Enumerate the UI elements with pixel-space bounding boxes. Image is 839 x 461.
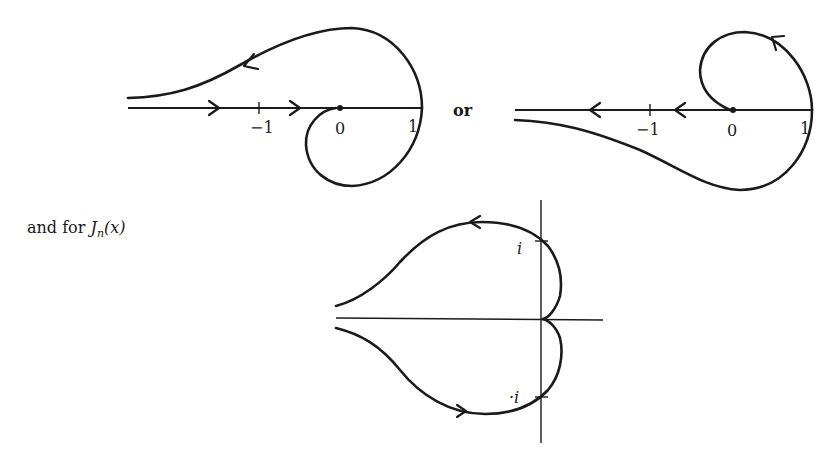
left-tick-label-0: 0 bbox=[335, 119, 345, 138]
left-upper-curve bbox=[128, 28, 422, 108]
right-lower-curve bbox=[515, 110, 812, 190]
right-contour: −1 0 1 bbox=[515, 32, 813, 190]
bessel-contour: i ·i bbox=[336, 200, 603, 443]
left-contour: −1 0 1 bbox=[128, 28, 422, 186]
left-lower-loop bbox=[306, 108, 422, 186]
right-upper-loop bbox=[700, 32, 812, 110]
right-tick-label-minus1: −1 bbox=[636, 120, 660, 139]
right-tick-label-0: 0 bbox=[727, 121, 737, 140]
bessel-label-minus-i: ·i bbox=[509, 388, 519, 407]
left-tick-label-minus1: −1 bbox=[250, 118, 274, 137]
bessel-lower-curve bbox=[336, 319, 562, 414]
or-separator: or bbox=[453, 101, 473, 120]
bessel-label-i: i bbox=[517, 239, 522, 258]
right-tick-label-1: 1 bbox=[800, 119, 810, 138]
left-tick-label-1: 1 bbox=[408, 117, 418, 136]
contour-diagrams: −1 0 1 or −1 0 1 i ·i bbox=[0, 0, 839, 461]
left-origin-dot bbox=[337, 105, 343, 111]
bessel-real-axis bbox=[336, 318, 603, 320]
bessel-upper-curve bbox=[336, 222, 561, 319]
